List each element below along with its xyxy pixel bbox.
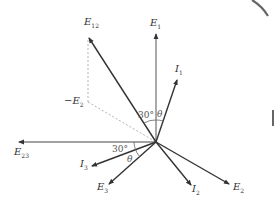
label-e1: E1	[150, 18, 161, 30]
label-neg-e2: −E2	[64, 96, 84, 108]
edge-arc-top	[252, 0, 268, 16]
angle-label-theta-upper: θ	[157, 110, 162, 119]
angle-arc-30-upper	[144, 120, 156, 123]
angle-arc-30-lower	[134, 142, 135, 148]
label-e23: E23	[14, 147, 29, 159]
vector-e2	[156, 142, 229, 184]
label-e12: E12	[84, 17, 99, 29]
angle-label-theta-lower: θ	[127, 155, 132, 164]
angle-label-30-lower: 30°	[112, 145, 128, 154]
label-i1: I1	[175, 64, 183, 76]
label-i2: I2	[192, 184, 200, 196]
vector-e12	[89, 38, 156, 142]
label-i3: I3	[80, 159, 88, 171]
angle-label-30-upper: 30°	[138, 111, 154, 120]
phasor-diagram	[0, 0, 274, 204]
vector-i2	[156, 142, 191, 185]
angle-arc-theta-upper	[156, 120, 163, 121]
label-e2: E2	[233, 182, 244, 194]
label-e3: E3	[97, 182, 108, 194]
